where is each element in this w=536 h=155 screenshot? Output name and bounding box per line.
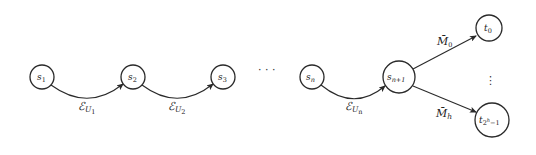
node-s3: s3	[211, 65, 235, 89]
vertical-ellipsis: ⋮	[485, 74, 496, 87]
horizontal-ellipsis: · · ·	[258, 63, 275, 76]
edge-label-e-u2: ℰU2	[168, 100, 185, 116]
state-transition-diagram: s1 s2 s3 sn sn+1 t0 t2h−1 ℰU1 ℰU2 ℰUn M̄…	[0, 0, 536, 155]
node-s2: s2	[121, 65, 145, 89]
edge-s2-s3	[142, 84, 213, 98]
edge-label-mh: M̄h	[435, 107, 452, 121]
node-t0: t0	[476, 15, 502, 41]
node-s1: s1	[30, 65, 54, 89]
edge-sn-sn1	[321, 85, 385, 99]
node-sn-plus-1: sn+1	[383, 61, 415, 93]
edge-s1-s2	[51, 84, 123, 98]
node-t-2h-minus-1: t2h−1	[475, 103, 509, 137]
edge-label-m0: M̄0	[436, 35, 452, 49]
edge-label-e-un: ℰUn	[345, 100, 363, 116]
node-sn: sn	[300, 65, 324, 89]
edge-label-e-u1: ℰU1	[78, 100, 95, 116]
